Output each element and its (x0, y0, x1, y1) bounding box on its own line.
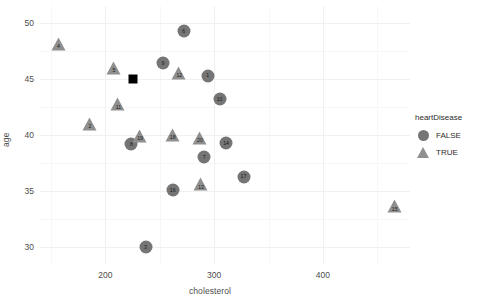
data-point[interactable]: 7 (198, 151, 211, 164)
data-point-label: 16 (170, 187, 176, 192)
grid-line-y (40, 79, 410, 80)
data-point[interactable]: 16 (166, 183, 179, 196)
legend-key (415, 145, 431, 160)
triangle-marker-icon (417, 147, 429, 158)
data-point[interactable]: 6 (177, 24, 190, 37)
data-point[interactable]: 4 (51, 37, 66, 50)
grid-line-y (40, 191, 410, 192)
data-point[interactable]: 2 (83, 117, 98, 130)
x-tick-label: 200 (85, 270, 125, 280)
y-tick-label: 35 (12, 186, 34, 196)
legend-title: heartDisease (415, 113, 462, 122)
data-points: 1234567891011121314151617181920 (40, 6, 410, 136)
data-point-label: 17 (241, 174, 247, 179)
data-point[interactable]: 15 (387, 200, 402, 213)
data-point[interactable]: 11 (111, 98, 126, 111)
legend-label: FALSE (436, 131, 461, 140)
data-point-label: 3 (144, 245, 147, 250)
data-point-label: 11 (116, 104, 121, 109)
grid-line-minor-y (40, 219, 410, 220)
grid-line-minor-y (40, 51, 410, 52)
legend-key (415, 128, 431, 143)
data-point[interactable]: 14 (220, 136, 233, 149)
data-point[interactable]: 5 (107, 61, 122, 74)
centroid-marker (128, 74, 137, 83)
y-tick-label: 40 (12, 130, 34, 140)
y-tick-label: 30 (12, 242, 34, 252)
data-point[interactable]: 9 (156, 57, 169, 70)
data-point[interactable]: 13 (194, 178, 209, 191)
data-point-label: 7 (203, 155, 206, 160)
data-point-label: 18 (170, 135, 176, 140)
data-point[interactable]: 3 (139, 241, 152, 254)
data-point-label: 12 (176, 72, 182, 77)
data-point-label: 14 (223, 140, 229, 145)
legend-items: FALSETRUE (415, 128, 462, 160)
data-point-label: 5 (113, 68, 116, 73)
data-point-label: 6 (182, 28, 185, 33)
data-point[interactable]: 19 (133, 129, 148, 142)
data-point[interactable]: 12 (172, 66, 187, 79)
legend: heartDisease FALSETRUE (415, 113, 462, 162)
x-tick-label: 400 (303, 270, 343, 280)
data-point-label: 10 (217, 96, 223, 101)
data-point-label: 15 (392, 206, 398, 211)
data-point[interactable]: 1 (201, 69, 214, 82)
legend-label: TRUE (436, 148, 458, 157)
data-point-label: 9 (162, 61, 165, 66)
data-point-label: 2 (89, 124, 92, 129)
x-tick-label: 300 (194, 270, 234, 280)
grid-line-minor-y (40, 163, 410, 164)
data-point[interactable]: 18 (165, 129, 180, 142)
y-tick-label: 50 (12, 18, 34, 28)
data-point[interactable]: 20 (192, 131, 207, 144)
data-point-label: 20 (197, 137, 203, 142)
data-point-label: 13 (198, 184, 204, 189)
grid-line-y (40, 23, 410, 24)
y-tick-label: 45 (12, 74, 34, 84)
grid-line-y (40, 247, 410, 248)
data-point[interactable]: 10 (213, 93, 226, 106)
data-point-label: 1 (206, 73, 209, 78)
data-point-label: 19 (137, 136, 143, 141)
legend-item[interactable]: TRUE (415, 145, 462, 160)
data-point-label: 4 (57, 43, 60, 48)
x-axis-title: cholesterol (0, 286, 420, 296)
scatter-plot: age cholesterol 3035404550 200300400 123… (0, 0, 477, 302)
circle-marker-icon (418, 130, 429, 141)
y-axis-title: age (1, 133, 11, 147)
data-point[interactable]: 17 (237, 170, 250, 183)
legend-item[interactable]: FALSE (415, 128, 462, 143)
grid-line-minor-y (40, 107, 410, 108)
plot-panel: 1234567891011121314151617181920 (40, 6, 410, 264)
